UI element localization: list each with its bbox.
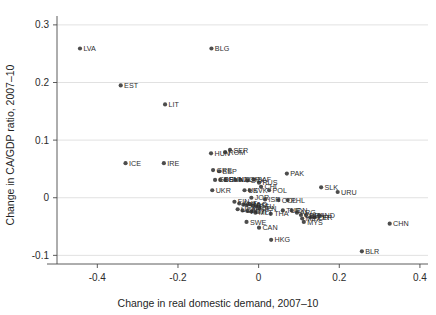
x-tick-label: -0.4 (89, 272, 107, 283)
data-point (123, 161, 127, 165)
point-labels-group: LVAESTLITBLGHUNROMSERICEIREGREESPUKRGBRD… (83, 44, 408, 256)
scatter-chart-figure: -0.100.10.20.3 -0.4-0.200.20.4 LVAESTLIT… (0, 0, 436, 315)
data-point (242, 188, 246, 192)
data-point (232, 200, 236, 204)
data-point (162, 161, 166, 165)
data-point-label: CAN (262, 223, 277, 232)
gridlines-group (57, 25, 428, 255)
data-point-label: EST (124, 81, 139, 90)
data-point-label: URU (341, 188, 357, 197)
y-axis-title: Change in CA/GDP ratio, 2007–10 (4, 64, 16, 225)
data-point-label: SER (233, 146, 248, 155)
data-point-label: ICE (129, 159, 141, 168)
y-tick-label: 0.2 (35, 77, 49, 88)
data-point (210, 188, 214, 192)
data-point (78, 46, 82, 50)
data-point (285, 171, 289, 175)
data-point-label: LVA (83, 44, 96, 53)
x-tick-label: 0 (256, 272, 262, 283)
data-point (236, 207, 240, 211)
data-point-label: LIT (168, 100, 179, 109)
data-point (269, 238, 273, 242)
data-point-label: MLT (259, 208, 273, 217)
data-point-label: PAK (290, 169, 304, 178)
y-tick-label: -0.1 (32, 250, 50, 261)
data-point (244, 220, 248, 224)
y-tick-label: 0 (43, 192, 49, 203)
y-tick-label: 0.3 (35, 19, 49, 30)
data-point (388, 222, 392, 226)
data-point (213, 178, 217, 182)
scatter-plot-canvas: -0.100.10.20.3 -0.4-0.200.20.4 LVAESTLIT… (0, 0, 436, 315)
x-tick-label: 0.2 (332, 272, 346, 283)
data-point-label: ESP (223, 167, 238, 176)
data-point-label: PHL (291, 196, 305, 205)
x-tick-labels-group: -0.4-0.200.20.4 (89, 272, 428, 283)
data-point (319, 185, 323, 189)
data-point (360, 249, 364, 253)
data-point-label: BLR (365, 247, 379, 256)
data-point (163, 102, 167, 106)
y-tick-label: 0.1 (35, 135, 49, 146)
data-point-label: CHN (393, 219, 409, 228)
y-axis-group (53, 16, 57, 264)
x-axis-title: Change in real domestic demand, 2007–10 (118, 297, 319, 309)
data-point (209, 46, 213, 50)
data-point (119, 83, 123, 87)
data-point-label: SLK (325, 183, 339, 192)
data-point (209, 151, 213, 155)
data-point-label: HKG (275, 235, 291, 244)
data-point-label: MYS (307, 218, 323, 227)
y-tick-labels-group: -0.100.10.20.3 (32, 19, 50, 260)
data-point (211, 168, 215, 172)
x-tick-label: -0.2 (169, 272, 187, 283)
x-axis-group (47, 264, 428, 268)
data-point-label: POL (273, 186, 287, 195)
data-point-label: BLG (215, 44, 230, 53)
data-point-label: IRE (167, 159, 179, 168)
data-point-label: UKR (216, 186, 231, 195)
x-tick-label: 0.4 (413, 272, 427, 283)
